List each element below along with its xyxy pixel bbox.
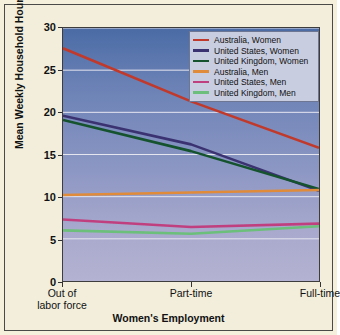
y-axis-tick-label: 10	[22, 191, 56, 203]
chart-legend: Australia, WomenUnited States, WomenUnit…	[189, 31, 319, 102]
legend-label: United Kingdom, Men	[214, 88, 296, 98]
legend-swatch-icon	[193, 70, 209, 73]
plot-area: Australia, WomenUnited States, WomenUnit…	[62, 27, 320, 282]
x-axis-tick-label-line: Part-time	[170, 288, 213, 300]
y-axis-tick-label: 25	[22, 64, 56, 76]
x-axis-tick-label: Out oflabor force	[37, 288, 87, 311]
y-axis-tick-label: 15	[22, 149, 56, 161]
x-axis-tick-label-line: Full-time	[300, 288, 340, 300]
legend-label: United Kingdom, Women	[214, 56, 308, 66]
legend-item-0[interactable]: Australia, Women	[193, 35, 314, 45]
legend-label: Australia, Women	[214, 35, 281, 45]
legend-label: Australia, Men	[214, 67, 268, 77]
legend-label: United States, Women	[214, 46, 299, 56]
legend-item-1[interactable]: United States, Women	[193, 46, 314, 56]
y-axis-tick-label: 30	[22, 21, 56, 33]
x-axis-tick-label-line: Out of	[37, 288, 87, 300]
legend-item-2[interactable]: United Kingdom, Women	[193, 56, 314, 66]
legend-swatch-icon	[193, 91, 209, 94]
legend-item-3[interactable]: Australia, Men	[193, 67, 314, 77]
legend-swatch-icon	[193, 60, 209, 63]
series-line-3	[63, 190, 319, 195]
series-line-4	[63, 219, 319, 227]
legend-swatch-icon	[193, 81, 209, 84]
legend-swatch-icon	[193, 39, 209, 42]
x-axis-title: Women's Employment	[5, 312, 332, 324]
legend-label: United States, Men	[214, 77, 286, 87]
y-axis-tick-label: 20	[22, 106, 56, 118]
x-axis-tick-label: Full-time	[300, 288, 340, 300]
series-line-1	[63, 116, 319, 191]
legend-item-5[interactable]: United Kingdom, Men	[193, 88, 314, 98]
x-axis-tick-label: Part-time	[170, 288, 213, 300]
x-axis-tick-label-line: labor force	[37, 300, 87, 312]
legend-item-4[interactable]: United States, Men	[193, 77, 314, 87]
legend-swatch-icon	[193, 49, 209, 52]
chart-frame: Mean Weekly Household Hours 051015202530…	[4, 4, 333, 331]
y-axis-tick-label: 5	[22, 234, 56, 246]
